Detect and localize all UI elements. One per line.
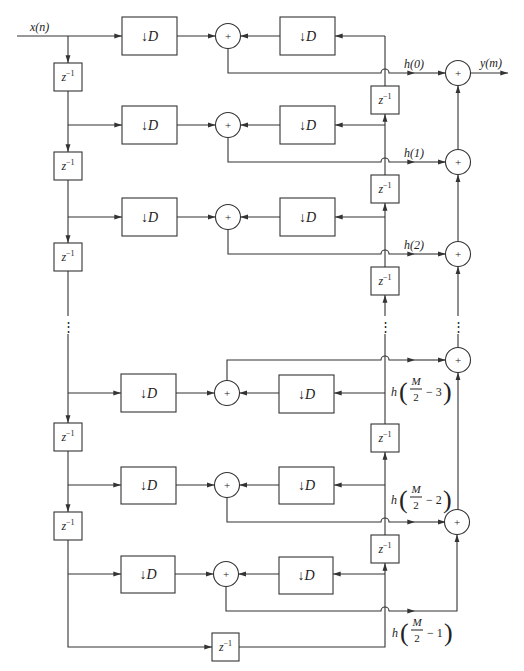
coefficient-wire — [415, 535, 457, 612]
down-arrow-icon: ↓ — [299, 210, 306, 225]
downsampler-label: ↓D — [299, 118, 316, 133]
coefficient-label-h-m-3: h ( M 2 − 3 ) — [391, 375, 452, 406]
downsampler-label: ↓D — [298, 478, 315, 493]
branch-row-2: ↓D + ↓D h(2) — [68, 198, 446, 254]
coefficient-label-h2: h(2) — [404, 238, 424, 252]
right-chain-ellipsis: ⋮ — [379, 319, 392, 334]
coef-offset: − 3 — [426, 385, 442, 399]
plus-icon: + — [455, 156, 461, 168]
bottom-delay-block: z−1 — [212, 633, 239, 661]
plus-icon: + — [225, 211, 231, 223]
coefficient-label-h1: h(1) — [404, 146, 424, 160]
plus-icon: + — [455, 67, 461, 79]
down-arrow-icon: ↓ — [140, 386, 147, 401]
coef-close-paren: ) — [444, 618, 453, 647]
downsampler-label: ↓D — [140, 386, 157, 401]
down-arrow-icon: ↓ — [299, 29, 306, 44]
delay-block: z−1 — [371, 86, 399, 114]
plus-icon: + — [225, 119, 231, 131]
down-arrow-icon: ↓ — [141, 29, 148, 44]
coefficient-label-h-m-2: h ( M 2 − 2 ) — [391, 483, 452, 514]
coef-open-paren: ( — [400, 618, 409, 647]
coef-open-paren: ( — [399, 377, 408, 406]
plus-icon: + — [455, 248, 461, 260]
coefficient-label-h-m-1: h ( M 2 − 1 ) — [392, 616, 453, 647]
output-label: y(m) — [479, 56, 502, 70]
branch-row-m-3: ↓D + ↓D h ( M 2 − 3 ) — [68, 356, 452, 413]
down-arrow-icon: ↓ — [299, 118, 306, 133]
plus-icon: + — [225, 30, 231, 42]
downsampler-label: ↓D — [297, 568, 314, 583]
coef-close-paren: ) — [443, 485, 452, 514]
coef-fn: h — [392, 626, 398, 640]
down-arrow-icon: ↓ — [298, 478, 305, 493]
delay-block: z−1 — [371, 267, 399, 295]
coef-fn: h — [391, 493, 397, 507]
delay-block: z−1 — [371, 535, 399, 563]
adder-chain-ellipsis: ⋮ — [452, 319, 465, 334]
downsampler-label: ↓D — [298, 387, 315, 402]
coef-offset: − 1 — [427, 626, 443, 640]
delay-block: z−1 — [54, 243, 82, 271]
coef-denominator: 2 — [413, 499, 419, 511]
coef-close-paren: ) — [443, 377, 452, 406]
down-arrow-icon: ↓ — [141, 118, 148, 133]
downsampler-label: ↓D — [140, 478, 157, 493]
downsampler-label: ↓D — [139, 567, 156, 582]
plus-icon: + — [223, 568, 229, 580]
down-arrow-icon: ↓ — [139, 567, 146, 582]
branch-row-0: ↓D + ↓D h(0) — [122, 17, 446, 73]
polyphase-decimator-diagram: x(n) ⋮ z−1 z−1 z−1 z−1 z−1 — [0, 0, 524, 671]
down-arrow-icon: ↓ — [297, 568, 304, 583]
delay-block: z−1 — [54, 512, 82, 540]
down-arrow-icon: ↓ — [140, 478, 147, 493]
coef-numerator: M — [411, 616, 422, 628]
down-arrow-icon: ↓ — [141, 210, 148, 225]
branch-row-m-2: ↓D + ↓D h ( M 2 − 2 ) — [68, 467, 452, 522]
coef-fn: h — [391, 385, 397, 399]
left-chain-ellipsis: ⋮ — [62, 319, 75, 334]
right-delay-chain: ⋮ z−1 z−1 z−1 z−1 z−1 — [371, 36, 399, 563]
delay-block: z−1 — [54, 423, 82, 451]
output-adder-chain: ⋮ + + + + + y(m) — [445, 56, 509, 535]
delay-block: z−1 — [54, 152, 82, 180]
plus-icon: + — [224, 479, 230, 491]
plus-icon: + — [454, 516, 460, 528]
downsampler-label: ↓D — [141, 210, 158, 225]
plus-icon: + — [455, 354, 461, 366]
delay-block: z−1 — [54, 63, 82, 91]
plus-icon: + — [224, 387, 230, 399]
coef-denominator: 2 — [414, 632, 420, 644]
coef-open-paren: ( — [399, 485, 408, 514]
downsampler-label: ↓D — [141, 118, 158, 133]
delay-block: z−1 — [371, 424, 399, 452]
coefficient-label-h0: h(0) — [404, 57, 424, 71]
downsampler-label: ↓D — [141, 29, 158, 44]
coef-numerator: M — [410, 483, 421, 495]
coef-denominator: 2 — [413, 391, 419, 403]
down-arrow-icon: ↓ — [298, 387, 305, 402]
coef-numerator: M — [410, 375, 421, 387]
input-label: x(n) — [29, 20, 49, 34]
downsampler-label: ↓D — [299, 210, 316, 225]
delay-block: z−1 — [371, 175, 399, 203]
downsampler-label: ↓D — [299, 29, 316, 44]
coef-offset: − 2 — [426, 493, 442, 507]
